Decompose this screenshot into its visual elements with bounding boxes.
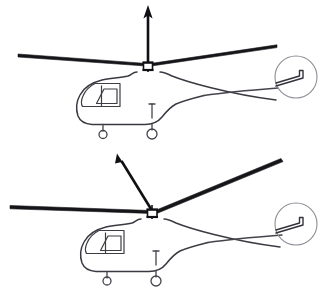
landing-gear-bottom bbox=[103, 251, 161, 286]
fuselage-outline-top bbox=[77, 72, 276, 125]
diagram-canvas bbox=[0, 0, 328, 294]
tail-rotor-bottom bbox=[275, 203, 317, 245]
fuselage-outline-bottom bbox=[81, 219, 280, 272]
rotor-hub-bottom bbox=[147, 210, 159, 218]
rotor-hub-top bbox=[143, 63, 154, 71]
main-rotor-blade-left-top bbox=[18, 54, 146, 66]
thrust-arrow-top bbox=[143, 5, 152, 62]
main-rotor-blade-left-bottom bbox=[10, 206, 150, 214]
wheel-front-top bbox=[99, 131, 107, 139]
landing-gear-top bbox=[99, 104, 157, 139]
main-rotor-blade-right-top bbox=[150, 45, 277, 66]
panel-bottom bbox=[10, 154, 317, 287]
panel-top bbox=[18, 5, 317, 139]
tail-rotor-top bbox=[275, 56, 317, 98]
main-rotor-blade-right-bottom bbox=[154, 159, 283, 215]
helicopter-thrust-vector-diagram bbox=[0, 0, 328, 294]
thrust-arrow-bottom bbox=[115, 154, 151, 210]
